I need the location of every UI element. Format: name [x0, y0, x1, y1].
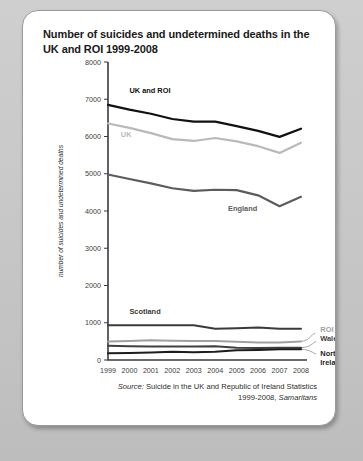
- y-axis-title: number of suicides and undetermined deat…: [57, 144, 64, 277]
- series-label-england: England: [228, 204, 258, 213]
- y-axis-tick-label: 8000: [85, 58, 101, 67]
- label-leader-line: [301, 349, 316, 354]
- x-axis-tick-label: 2004: [207, 366, 223, 375]
- series-line-scotland: [108, 325, 301, 328]
- y-axis-tick-label: 0: [97, 356, 101, 365]
- series-line-wales: [108, 346, 301, 348]
- series-label-northern-ireland: Northern: [320, 349, 335, 358]
- y-axis-tick-label: 2000: [85, 281, 101, 290]
- series-label-uk: UK: [121, 130, 132, 139]
- y-axis-tick-label: 6000: [85, 132, 101, 141]
- y-axis-tick-label: 5000: [85, 169, 101, 178]
- series-label-northern-ireland: Ireland: [320, 358, 335, 367]
- series-label-wales: Wales: [320, 334, 335, 343]
- line-chart: 0100020003000400050006000700080001999200…: [23, 11, 335, 425]
- label-leader-line: [301, 341, 316, 347]
- source-prefix: Source:: [118, 382, 144, 391]
- source-publisher: Samaritans: [279, 393, 317, 402]
- x-axis-tick-label: 2006: [250, 366, 266, 375]
- y-axis-tick-label: 1000: [85, 318, 101, 327]
- x-axis-tick-label: 2003: [186, 366, 202, 375]
- series-label-uk-and-roi: UK and ROI: [129, 86, 170, 95]
- x-axis-tick-label: 2001: [143, 366, 159, 375]
- series-line-uk-and-roi: [108, 105, 301, 137]
- x-axis-tick-label: 2008: [293, 366, 309, 375]
- source-note: Source: Suicide in the UK and Republic o…: [107, 381, 317, 403]
- chart-card: Number of suicides and undetermined deat…: [22, 10, 336, 426]
- x-axis-tick-label: 2000: [121, 366, 137, 375]
- series-line-uk: [108, 123, 301, 152]
- x-axis-tick-label: 2007: [272, 366, 288, 375]
- x-axis-tick-label: 1999: [100, 366, 116, 375]
- label-leader-line: [301, 333, 315, 341]
- series-line-northern-ireland: [108, 349, 301, 353]
- y-axis-tick-label: 7000: [85, 95, 101, 104]
- x-axis-tick-label: 2002: [164, 366, 180, 375]
- series-line-england: [108, 174, 301, 206]
- x-axis-tick-label: 2005: [229, 366, 245, 375]
- series-line-roi: [108, 340, 301, 342]
- y-axis-tick-label: 3000: [85, 244, 101, 253]
- chart-plot-area: 0100020003000400050006000700080001999200…: [23, 11, 335, 425]
- y-axis-tick-label: 4000: [85, 207, 101, 216]
- series-label-scotland: Scotland: [129, 307, 161, 316]
